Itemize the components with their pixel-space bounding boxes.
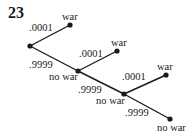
prob-label: .9999 [78,85,102,96]
leaf-node-war-3 [163,72,168,77]
prob-label: .9999 [29,60,53,71]
outcome-label: no war [49,72,78,83]
outcome-label: no war [96,96,125,107]
prob-label: .0001 [79,49,103,60]
outcome-label: war [111,38,127,49]
outcome-label: war [157,62,173,73]
leaf-node-war-1 [67,22,72,27]
outcome-label: war [62,12,78,23]
leaf-node-nowar [167,116,172,121]
prob-label: .0001 [29,23,53,34]
leaf-node-war-2 [114,48,119,53]
prob-label: .9999 [125,108,149,119]
root-node [27,43,32,48]
outcome-label: no war [157,123,186,134]
prob-label: .0001 [122,72,146,83]
